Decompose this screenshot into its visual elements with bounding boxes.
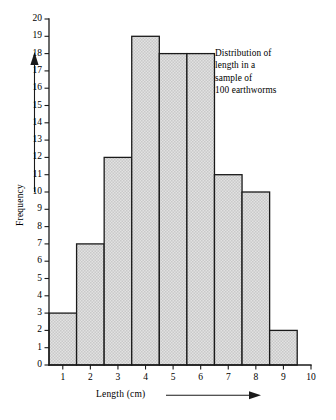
histogram-bar	[187, 54, 215, 365]
histogram-bar	[214, 175, 242, 365]
histogram-plot	[0, 0, 336, 420]
histogram-bar	[270, 330, 298, 365]
histogram-bar	[132, 36, 160, 365]
histogram-bar	[159, 54, 187, 365]
histogram-bar	[49, 313, 77, 365]
histogram-bar	[77, 244, 105, 365]
histogram-figure: Frequency 012345678910111213141516171819…	[0, 0, 336, 420]
histogram-bar	[242, 192, 270, 365]
bars-group	[49, 36, 297, 365]
histogram-bar	[104, 157, 132, 365]
